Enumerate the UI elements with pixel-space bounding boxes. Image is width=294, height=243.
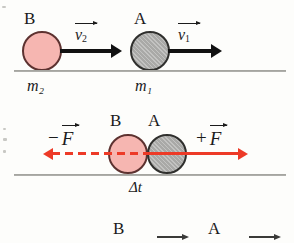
after-ball-a-label: A — [208, 220, 220, 237]
vector-overarrow — [62, 122, 74, 129]
force-left-sign: − — [48, 128, 59, 148]
ball-a — [130, 31, 170, 71]
force-arrow-right — [147, 152, 239, 155]
velocity-a-symbol: v1 — [178, 27, 190, 44]
ball-a-label: A — [134, 10, 146, 27]
force-right-vector: F — [210, 122, 222, 148]
contact-ball-b-label: B — [110, 112, 121, 129]
panel-after-collision: B A — [0, 200, 294, 243]
force-right-symbol: F — [210, 129, 222, 148]
mass-a-label: m₁ — [135, 78, 152, 94]
physics-collision-figure: B A v2 v1 m₂ — [0, 0, 294, 243]
ground-line-contact — [14, 174, 286, 176]
force-arrow-left — [52, 152, 148, 155]
vector-overarrow — [178, 20, 190, 27]
velocity-arrow-b — [60, 49, 112, 53]
force-left-label: − F — [48, 122, 73, 148]
force-right-sign: + — [196, 128, 207, 148]
contact-duration-label: Δt — [129, 180, 142, 195]
velocity-b-vector-label: v2 — [75, 20, 87, 44]
after-ball-b-label: B — [113, 220, 124, 237]
after-velocity-arrow-b — [157, 236, 183, 238]
force-right-label: + F — [196, 122, 221, 148]
ball-b — [22, 31, 62, 71]
ball-b-label: B — [24, 10, 35, 27]
contact-ball-a-label: A — [148, 112, 160, 129]
velocity-b-symbol: v2 — [75, 27, 87, 44]
force-left-symbol: F — [62, 129, 74, 148]
panel-during-collision: B A − F + F — [0, 100, 294, 200]
vector-overarrow — [75, 20, 87, 27]
force-left-vector: F — [62, 122, 74, 148]
panel-before-collision: B A v2 v1 m₂ — [0, 0, 294, 100]
velocity-a-vector-label: v1 — [178, 20, 190, 44]
ground-line-before — [14, 70, 286, 72]
after-velocity-arrow-a — [249, 236, 275, 238]
vector-overarrow — [210, 122, 222, 129]
mass-b-label: m₂ — [27, 78, 44, 94]
velocity-arrow-a — [168, 49, 212, 53]
